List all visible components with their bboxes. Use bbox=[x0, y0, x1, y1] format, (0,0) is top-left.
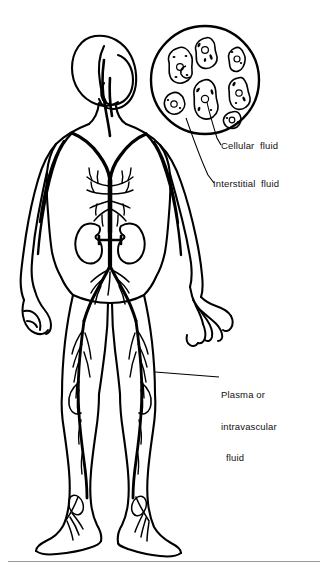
inset-cells bbox=[164, 38, 250, 129]
body-fluid-diagram bbox=[0, 0, 328, 569]
label-interstitial-fluid: Interstitial fluid bbox=[213, 179, 279, 190]
left-hand bbox=[23, 291, 52, 334]
magnified-tissue-circle bbox=[151, 26, 259, 134]
right-foot-vessels bbox=[129, 494, 149, 541]
leader-plasma bbox=[155, 372, 219, 377]
leader-cellular bbox=[207, 102, 221, 145]
carotid-vessels bbox=[103, 60, 112, 136]
leader-lines bbox=[155, 102, 221, 377]
label-plasma-line1: Plasma or bbox=[221, 390, 277, 401]
label-plasma-line2: intravascular bbox=[221, 422, 277, 433]
vascular-tree bbox=[38, 133, 181, 498]
intercostal-branches-left bbox=[87, 168, 109, 226]
intercostal-branches-right bbox=[111, 168, 133, 226]
aortic-arch bbox=[72, 133, 146, 180]
label-plasma-fluid: Plasma or intravascular fluid bbox=[221, 369, 277, 474]
left-foot-vessels bbox=[66, 493, 86, 540]
label-plasma-line3: fluid bbox=[221, 453, 277, 464]
label-cellular-fluid: Cellular fluid bbox=[221, 141, 278, 152]
footer-divider-rule bbox=[8, 561, 320, 562]
right-hand bbox=[187, 287, 233, 346]
pelvic-branches bbox=[91, 270, 129, 304]
leader-interstitial bbox=[186, 118, 214, 183]
